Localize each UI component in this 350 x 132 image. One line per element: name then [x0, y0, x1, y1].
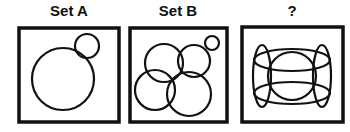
panel-c — [242, 27, 343, 122]
small-circle — [75, 34, 99, 58]
panel-a-frame — [19, 28, 119, 122]
panel-a — [19, 28, 119, 122]
puzzle-figure — [0, 0, 350, 132]
small-circle — [205, 36, 219, 50]
panel-b — [130, 28, 227, 122]
panel-c-frame — [242, 27, 343, 122]
center-circle — [268, 52, 316, 100]
